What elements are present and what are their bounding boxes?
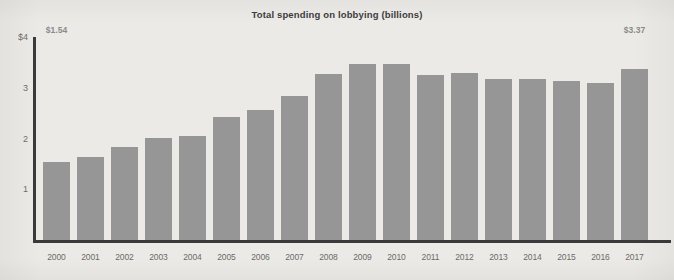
bar-value-label-2000: $1.54 [46, 25, 67, 35]
bar-slot-2012[interactable] [451, 37, 478, 240]
bar-slot-2015[interactable] [553, 37, 580, 240]
bar-slot-2010[interactable] [383, 37, 410, 240]
chart-title: Total spending on lobbying (billions) [0, 9, 674, 20]
bar-2015[interactable] [553, 81, 580, 240]
bar-2001[interactable] [77, 157, 104, 240]
bar-2011[interactable] [417, 75, 444, 240]
lobbying-spending-bar-chart: Total spending on lobbying (billions) $4… [0, 0, 674, 280]
bar-slot-2013[interactable] [485, 37, 512, 240]
x-axis-label-2001: 2001 [77, 252, 104, 262]
bar-2006[interactable] [247, 110, 274, 240]
y-axis-tick-1: 1 [23, 184, 28, 194]
bar-slot-2017[interactable]: $3.37 [621, 37, 648, 240]
y-axis-tick-3: 3 [23, 83, 28, 93]
plot-area: $4321 $1.54$3.37 [33, 37, 671, 243]
bar-slot-2001[interactable] [77, 37, 104, 240]
bar-slot-2008[interactable] [315, 37, 342, 240]
bar-2009[interactable] [349, 64, 376, 240]
bar-slot-2003[interactable] [145, 37, 172, 240]
bar-slot-2014[interactable] [519, 37, 546, 240]
bar-2017[interactable] [621, 69, 648, 240]
bar-value-label-2017: $3.37 [624, 25, 645, 35]
x-axis-label-2009: 2009 [349, 252, 376, 262]
x-axis-label-2008: 2008 [315, 252, 342, 262]
bar-2004[interactable] [179, 136, 206, 240]
bar-2014[interactable] [519, 79, 546, 240]
x-axis-label-2011: 2011 [417, 252, 444, 262]
bar-slot-2004[interactable] [179, 37, 206, 240]
bar-2008[interactable] [315, 74, 342, 240]
x-axis-label-2004: 2004 [179, 252, 206, 262]
y-axis-line [33, 37, 36, 243]
x-axis-label-2017: 2017 [621, 252, 648, 262]
x-axis-tick-group: 2000200120022003200420052006200720082009… [43, 252, 648, 262]
x-axis-label-2014: 2014 [519, 252, 546, 262]
x-axis-label-2006: 2006 [247, 252, 274, 262]
bar-2002[interactable] [111, 147, 138, 240]
bar-2016[interactable] [587, 83, 614, 240]
bar-2012[interactable] [451, 73, 478, 240]
bar-2000[interactable] [43, 162, 70, 240]
bar-2007[interactable] [281, 96, 308, 240]
bar-series: $1.54$3.37 [43, 37, 648, 240]
x-axis-label-2012: 2012 [451, 252, 478, 262]
x-axis-label-2005: 2005 [213, 252, 240, 262]
x-axis-label-2013: 2013 [485, 252, 512, 262]
bar-2003[interactable] [145, 138, 172, 241]
bar-slot-2005[interactable] [213, 37, 240, 240]
bar-2013[interactable] [485, 79, 512, 240]
y-axis-tick-4: $4 [18, 32, 28, 42]
bar-slot-2002[interactable] [111, 37, 138, 240]
bar-slot-2000[interactable]: $1.54 [43, 37, 70, 240]
x-axis-label-2007: 2007 [281, 252, 308, 262]
x-axis-label-2016: 2016 [587, 252, 614, 262]
x-axis-line [33, 240, 671, 243]
bar-2010[interactable] [383, 64, 410, 240]
y-axis-tick-2: 2 [23, 134, 28, 144]
bar-slot-2006[interactable] [247, 37, 274, 240]
x-axis-label-2015: 2015 [553, 252, 580, 262]
x-axis-label-2002: 2002 [111, 252, 138, 262]
x-axis-label-2003: 2003 [145, 252, 172, 262]
x-axis-label-2000: 2000 [43, 252, 70, 262]
bar-2005[interactable] [213, 117, 240, 240]
bar-slot-2016[interactable] [587, 37, 614, 240]
bar-slot-2009[interactable] [349, 37, 376, 240]
bar-slot-2007[interactable] [281, 37, 308, 240]
bar-slot-2011[interactable] [417, 37, 444, 240]
x-axis-label-2010: 2010 [383, 252, 410, 262]
